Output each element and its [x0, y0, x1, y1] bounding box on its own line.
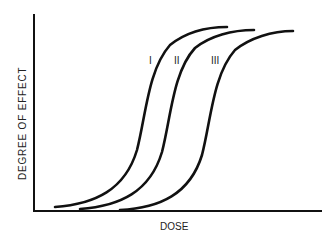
curve-label-II: II	[174, 55, 180, 66]
curve-I	[55, 27, 227, 207]
x-axis-label: DOSE	[160, 221, 189, 232]
curve-label-I: I	[149, 55, 152, 66]
dose-response-chart: I II III DOSE DEGREE OF EFFECT	[0, 0, 335, 243]
curve-II	[80, 30, 254, 209]
curve-label-III: III	[211, 55, 219, 66]
y-axis-label: DEGREE OF EFFECT	[17, 67, 28, 180]
